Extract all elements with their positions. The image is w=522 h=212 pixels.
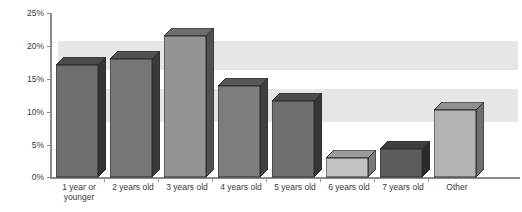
y-tick-mark-10	[47, 112, 52, 113]
x-tick-label-1-year-or-younger: 1 year or younger	[48, 182, 110, 202]
bar-6-years-old[interactable]	[326, 150, 376, 178]
bar-4-years-old[interactable]	[218, 78, 268, 178]
x-tick-label-2-years-old: 2 years old	[102, 182, 164, 192]
x-tick-label-5-years-old: 5 years old	[264, 182, 326, 192]
x-tick-label-other: Other	[426, 182, 488, 192]
y-tick-mark-0	[47, 177, 52, 178]
x-tick-label-7-years-old: 7 years old	[372, 182, 434, 192]
y-tick-label-20: 20%	[16, 41, 44, 51]
y-axis-line	[50, 13, 52, 178]
y-tick-mark-15	[47, 79, 52, 80]
bar-3-years-old[interactable]	[164, 28, 214, 178]
x-tick-label-3-years-old: 3 years old	[156, 182, 218, 192]
y-tick-label-25: 25%	[16, 8, 44, 18]
y-tick-label-5: 5%	[16, 140, 44, 150]
y-tick-mark-20	[47, 46, 52, 47]
y-tick-label-10: 10%	[16, 107, 44, 117]
bar-chart: 25% 20% 15% 10% 5% 0%	[0, 0, 522, 212]
x-tick-label-6-years-old: 6 years old	[318, 182, 380, 192]
y-tick-mark-25	[47, 13, 52, 14]
bar-7-years-old[interactable]	[380, 141, 430, 178]
bar-1-year-or-younger[interactable]	[56, 57, 106, 178]
bar-other[interactable]	[434, 102, 484, 178]
bar-5-years-old[interactable]	[272, 93, 322, 178]
bar-2-years-old[interactable]	[110, 51, 160, 178]
x-tick-label-4-years-old: 4 years old	[210, 182, 272, 192]
y-tick-label-0: 0%	[16, 172, 44, 182]
y-tick-label-15: 15%	[16, 74, 44, 84]
y-tick-mark-5	[47, 145, 52, 146]
